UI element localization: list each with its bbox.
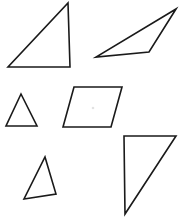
figure-canvas: [0, 0, 181, 222]
shapes-diagram: [0, 0, 181, 222]
faint-speck-mark: [92, 107, 95, 110]
